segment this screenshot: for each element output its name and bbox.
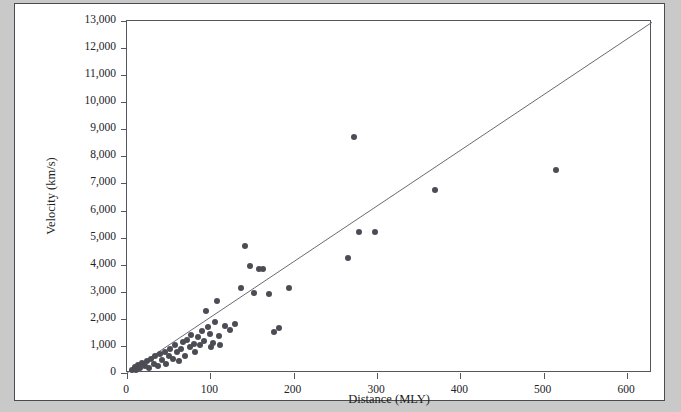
- y-tick-label: 5,000: [66, 231, 116, 243]
- data-point: [276, 325, 282, 331]
- plot-frame: [126, 20, 651, 372]
- y-tick-label: 6,000: [66, 204, 116, 216]
- data-point: [212, 319, 218, 325]
- data-point: [205, 324, 211, 330]
- data-point: [217, 342, 223, 348]
- data-point: [345, 255, 351, 261]
- x-tick-label: 0: [123, 384, 129, 396]
- data-point: [207, 331, 213, 337]
- y-tick-mark: [121, 156, 127, 157]
- y-tick-label: 7,000: [66, 177, 116, 189]
- y-tick-label: 10,000: [66, 95, 116, 107]
- y-tick-label: 8,000: [66, 150, 116, 162]
- data-point: [201, 338, 207, 344]
- y-tick-label: 13,000: [66, 14, 116, 26]
- y-tick-label: 9,000: [66, 123, 116, 135]
- y-tick-mark: [121, 211, 127, 212]
- data-point: [260, 266, 266, 272]
- x-tick-mark: [377, 373, 378, 379]
- y-tick-label: 4,000: [66, 258, 116, 270]
- y-tick-mark: [121, 238, 127, 239]
- y-tick-label: 0: [66, 366, 116, 378]
- data-point: [251, 290, 257, 296]
- y-tick-mark: [121, 346, 127, 347]
- x-tick-mark: [294, 373, 295, 379]
- x-tick-label: 300: [367, 384, 384, 396]
- y-tick-mark: [121, 48, 127, 49]
- x-tick-mark: [127, 373, 128, 379]
- y-tick-mark: [121, 292, 127, 293]
- data-point: [182, 353, 188, 359]
- y-tick-mark: [121, 183, 127, 184]
- y-tick-mark: [121, 75, 127, 76]
- x-tick-label: 200: [284, 384, 301, 396]
- data-point: [203, 308, 209, 314]
- data-point: [146, 365, 152, 371]
- data-point: [210, 340, 216, 346]
- data-point: [356, 229, 362, 235]
- data-point: [286, 285, 292, 291]
- y-tick-label: 3,000: [66, 285, 116, 297]
- plot-area: [127, 21, 650, 371]
- data-point: [238, 285, 244, 291]
- page-background: Velocity (km/s) Distance (MLY) 01,0002,0…: [0, 0, 681, 412]
- x-tick-mark: [210, 373, 211, 379]
- y-axis-title: Velocity (km/s): [44, 157, 59, 234]
- data-point: [170, 356, 176, 362]
- x-axis-title: Distance (MLY): [348, 392, 430, 407]
- data-point: [191, 341, 197, 347]
- x-tick-mark: [544, 373, 545, 379]
- data-point: [199, 328, 205, 334]
- y-tick-mark: [121, 265, 127, 266]
- data-point: [163, 361, 169, 367]
- x-tick-label: 400: [451, 384, 468, 396]
- y-tick-mark: [121, 129, 127, 130]
- x-tick-mark: [460, 373, 461, 379]
- y-tick-mark: [121, 319, 127, 320]
- x-tick-mark: [627, 373, 628, 379]
- y-tick-mark: [121, 102, 127, 103]
- data-point: [227, 327, 233, 333]
- y-tick-label: 11,000: [66, 68, 116, 80]
- y-tick-label: 1,000: [66, 339, 116, 351]
- y-tick-label: 12,000: [66, 41, 116, 53]
- x-tick-label: 100: [201, 384, 218, 396]
- x-tick-label: 500: [534, 384, 551, 396]
- x-tick-label: 600: [617, 384, 634, 396]
- y-tick-mark: [121, 21, 127, 22]
- data-point: [172, 342, 178, 348]
- trend-line: [127, 21, 652, 373]
- figure-card: Velocity (km/s) Distance (MLY) 01,0002,0…: [14, 3, 665, 401]
- y-tick-label: 2,000: [66, 312, 116, 324]
